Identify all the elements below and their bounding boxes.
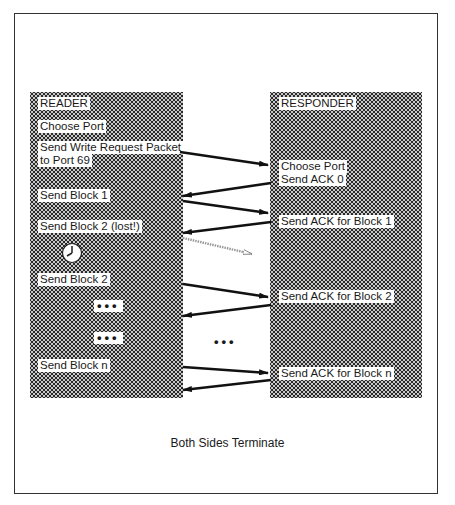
message-arrows — [0, 0, 455, 505]
arrow-ack-0 — [183, 183, 271, 196]
footer-caption: Both Sides Terminate — [0, 436, 455, 450]
arrow-block-n — [183, 367, 268, 373]
arrow-block-2 — [183, 284, 268, 297]
arrow-write-request — [180, 152, 268, 165]
arrow-block-2-lost — [183, 238, 252, 254]
arrow-ack-block-n — [183, 380, 271, 390]
arrow-ack-block-2 — [183, 305, 271, 316]
arrow-ack-block-1 — [183, 222, 271, 233]
arrow-block-1 — [183, 201, 268, 213]
